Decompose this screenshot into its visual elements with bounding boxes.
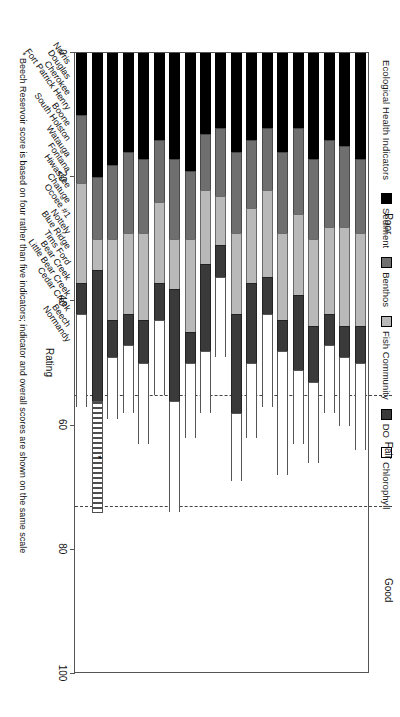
bar-segment-do [123, 314, 134, 345]
value-axis: 020406080100 [74, 52, 75, 673]
bar-segment-do [138, 320, 149, 363]
bar-segment-sediment [138, 53, 149, 159]
asterisk-icon: * [92, 455, 102, 459]
bar-segment-chloro [324, 345, 335, 413]
bar-segment-do [154, 283, 165, 320]
bar-row [308, 53, 319, 463]
figure: Ecological Health Indicators Sediment Be… [0, 0, 400, 717]
bar-segment-sediment [293, 53, 304, 128]
bar-segment-fish [246, 208, 257, 283]
legend-swatch-benthos [381, 257, 392, 268]
bar-segment-sediment [308, 53, 319, 159]
bar-segment-chloro [246, 363, 257, 438]
bar-segment-sediment [123, 53, 134, 152]
rotated-figure-canvas: Ecological Health Indicators Sediment Be… [0, 0, 400, 717]
bar-segment-chloro [308, 382, 319, 463]
bar-segment-benthos [200, 134, 211, 190]
value-axis-title: Rating [44, 52, 55, 673]
bar-segment-sediment [185, 53, 196, 171]
bar-row [293, 53, 304, 444]
bar-segment-benthos [185, 171, 196, 239]
bar-row [185, 53, 196, 438]
bar-segment-do [169, 289, 180, 401]
bar-segment-do [216, 245, 227, 276]
bar-segment-benthos [339, 146, 350, 227]
legend-item-do: DO [381, 409, 392, 438]
bar-segment-benthos [107, 165, 118, 240]
axis-tick [70, 673, 75, 674]
bar-segment-do [92, 270, 103, 400]
footnote: * Beech Reservoir score is based on four… [18, 52, 28, 553]
bar-segment-do [339, 326, 350, 357]
bar-segment-chloro [277, 351, 288, 475]
bar-segment-benthos [308, 159, 319, 240]
legend-item-benthos: Benthos [381, 257, 392, 307]
bar-segment-chloro [339, 357, 350, 425]
axis-tick [70, 176, 75, 177]
bar-segment-do [76, 283, 87, 314]
bar-row [154, 53, 165, 395]
bar-segment-chloro [107, 357, 118, 419]
bar-segment-benthos [355, 159, 366, 234]
bar-segment-do [324, 314, 335, 345]
bar-segment-do [185, 332, 196, 363]
bar-row [324, 53, 335, 413]
bar-segment-fish [262, 190, 273, 277]
bar-segment-fish [308, 239, 319, 326]
legend-label-fish-community: Fish Community [381, 331, 392, 400]
bar-segment-chloro [231, 413, 242, 481]
bar-segment-fish [277, 233, 288, 320]
bar-segment-fish [154, 202, 165, 283]
bar-segment-fish [123, 233, 134, 314]
bar-segment-benthos [216, 128, 227, 196]
bar-row [200, 53, 211, 413]
bar-segment-sediment [92, 53, 103, 177]
bar-row: * [92, 53, 103, 513]
bar-row [216, 53, 227, 357]
bar-segment-benthos [231, 152, 242, 233]
bar-row [277, 53, 288, 475]
bar-segment-benthos [138, 159, 149, 234]
bar-segment-chloro [293, 370, 304, 445]
bar-segment-sediment [231, 53, 242, 152]
bar-segment-fish [138, 233, 149, 320]
bar-segment-benthos [154, 140, 165, 202]
legend-item-fish-community: Fish Community [381, 316, 392, 400]
plot-inner: PoorFairGood * [75, 53, 368, 672]
axis-tick-label: 0 [57, 49, 68, 55]
bar-segment-benthos [262, 128, 273, 190]
bar-segment-do [231, 314, 242, 413]
zone-label-fair: Fair [383, 442, 394, 459]
bar-series-group: * [75, 53, 368, 672]
bar-row [355, 53, 366, 450]
bar-segment-sediment [262, 53, 273, 128]
zone-label-poor: Poor [383, 213, 394, 234]
legend-swatch-fish-community [381, 316, 392, 327]
bar-segment-fish [324, 227, 335, 314]
bar-segment-chloro [200, 351, 211, 413]
bar-segment-fish [107, 239, 118, 320]
bar-segment-fish [355, 233, 366, 326]
bar-segment-fish [200, 190, 211, 265]
bar-segment-benthos [92, 177, 103, 239]
axis-tick-label: 100 [57, 665, 68, 682]
zone-label-good: Good [383, 578, 394, 602]
bar-row [262, 53, 273, 407]
bar-segment-benthos [246, 140, 257, 208]
legend-title: Ecological Health Indicators [381, 60, 392, 180]
bar-segment-sediment [339, 53, 350, 146]
legend-label-do: DO [381, 424, 392, 438]
bar-segment-sediment [200, 53, 211, 134]
bar-segment-chloro [123, 345, 134, 413]
bar-segment-chloro [169, 401, 180, 513]
bar-segment-do [355, 326, 366, 363]
bar-segment-benthos [324, 140, 335, 227]
bar-row [76, 53, 87, 407]
bar-segment-fish [339, 227, 350, 326]
bar-segment-chloro [138, 363, 149, 444]
bar-segment-do [246, 283, 257, 364]
bar-row [107, 53, 118, 419]
bar-segment-chloro [185, 363, 196, 438]
bar-segment-sediment [154, 53, 165, 140]
bar-segment-sediment [76, 53, 87, 115]
